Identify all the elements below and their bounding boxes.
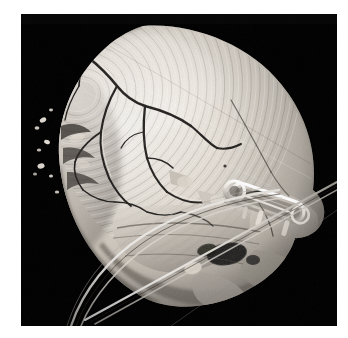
- figure-root: CT 3D volume rendering pediatric skull l…: [0, 0, 348, 338]
- image-noise: [21, 14, 337, 326]
- ct-render-canvas: [21, 14, 337, 326]
